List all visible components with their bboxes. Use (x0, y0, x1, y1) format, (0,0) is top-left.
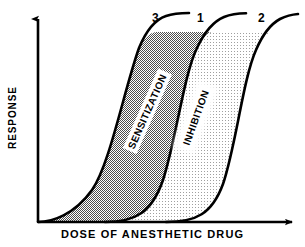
plot-canvas (0, 0, 305, 247)
y-axis-title: RESPONSE (7, 82, 18, 154)
curve-label-1: 1 (197, 11, 204, 25)
curve-label-3: 3 (152, 11, 159, 25)
curve-label-2: 2 (258, 11, 265, 25)
x-axis-title: DOSE OF ANESTHETIC DRUG (0, 228, 305, 240)
dose-response-figure: RESPONSE DOSE OF ANESTHETIC DRUG 3 1 2 S… (0, 0, 305, 247)
